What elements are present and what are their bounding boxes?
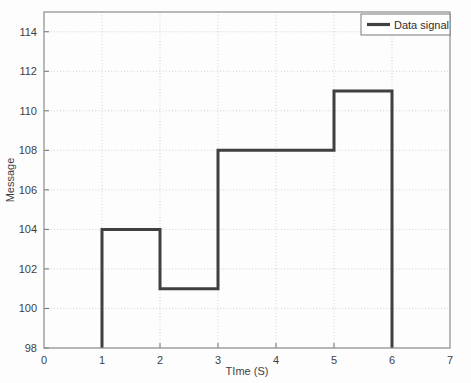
legend-label-data-signal: Data signal <box>394 19 449 31</box>
x-tick-label: 0 <box>41 354 47 366</box>
y-axis-tick-labels: 98100102104106108110112114 <box>19 26 37 354</box>
y-tick-label: 112 <box>19 65 37 77</box>
x-tick-label: 6 <box>389 354 395 366</box>
legend[interactable]: Data signal <box>361 14 450 35</box>
y-tick-label: 106 <box>19 184 37 196</box>
y-tick-label: 102 <box>19 263 37 275</box>
y-tick-label: 114 <box>19 26 37 38</box>
x-tick-label: 1 <box>99 354 105 366</box>
y-axis-title: Message <box>4 158 16 203</box>
x-tick-label: 5 <box>331 354 337 366</box>
x-tick-label: 7 <box>447 354 453 366</box>
y-tick-label: 98 <box>25 342 37 354</box>
x-tick-label: 4 <box>273 354 279 366</box>
y-tick-label: 100 <box>19 302 37 314</box>
plot-background <box>44 12 450 348</box>
x-tick-label: 2 <box>157 354 163 366</box>
y-tick-label: 104 <box>19 223 37 235</box>
y-tick-label: 108 <box>19 144 37 156</box>
chart-figure: 98100102104106108110112114 01234567 TIme… <box>0 0 471 383</box>
y-tick-label: 110 <box>19 105 37 117</box>
step-chart: 98100102104106108110112114 01234567 TIme… <box>0 0 471 383</box>
x-tick-label: 3 <box>215 354 221 366</box>
x-axis-title: TIme (S) <box>226 365 269 377</box>
